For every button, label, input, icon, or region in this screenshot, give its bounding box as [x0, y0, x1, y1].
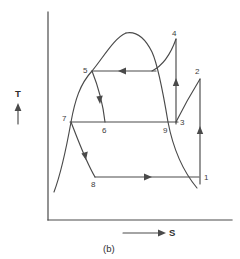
curve-2-3: [176, 79, 200, 122]
arrow-up-3-4: [173, 78, 179, 86]
point-label-4: 4: [172, 29, 177, 38]
process-8-to-1-isobar: [95, 174, 199, 181]
saturated-vapor-line: [126, 33, 197, 188]
point-label-9: 9: [163, 126, 168, 135]
process-2-to-3-condensation: [176, 79, 200, 122]
point-label-2: 2: [195, 67, 200, 76]
process-to-point-4-curve: [152, 39, 176, 71]
entropy-axis-label: S: [169, 227, 175, 238]
arrow-up-1-2: [197, 126, 203, 134]
point-label-1: 1: [204, 173, 209, 182]
ts-diagram-svg: 1 2 3 4 5 6 7 8 9 T S (b): [0, 0, 240, 259]
point-label-7: 7: [62, 114, 67, 123]
process-5-to-4-isobar: [92, 68, 156, 75]
state-point-labels: 1 2 3 4 5 6 7 8 9: [62, 29, 209, 189]
figure-caption: (b): [103, 243, 115, 254]
temperature-axis-label: T: [15, 88, 21, 99]
ts-diagram-figure: 1 2 3 4 5 6 7 8 9 T S (b): [0, 0, 240, 259]
process-5-to-6-expansion: [92, 71, 105, 122]
arrow-down-7-8: [81, 151, 87, 160]
point-label-8: 8: [91, 180, 96, 189]
y-axis-arrowhead-icon: [15, 103, 22, 111]
point-label-5: 5: [83, 66, 88, 75]
point-label-3: 3: [180, 118, 185, 127]
y-axis-label-group: T: [15, 88, 22, 124]
x-axis-label-group: S: [123, 227, 175, 238]
arrow-left-5-4: [118, 68, 126, 75]
process-7-to-8-expansion: [71, 122, 95, 177]
axis-group: [48, 12, 232, 220]
process-3-to-4-compression: [173, 39, 179, 124]
x-axis-arrowhead-icon: [158, 230, 166, 237]
curve-to-4: [152, 39, 176, 71]
point-label-6: 6: [102, 126, 107, 135]
process-1-to-2-compression: [197, 79, 203, 184]
curve-7-8: [71, 122, 95, 177]
arrow-right-8-1: [144, 174, 152, 181]
